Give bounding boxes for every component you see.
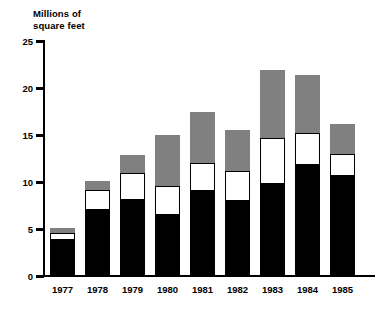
x-axis-label: 1985	[320, 284, 366, 295]
y-axis-tick-label: 0	[5, 271, 33, 282]
y-axis-tick-label: 20	[5, 83, 33, 94]
bar-group	[50, 0, 75, 322]
y-axis-tick	[36, 134, 44, 137]
y-axis-tick-label: 15	[5, 130, 33, 141]
bar-segment-bottom	[225, 201, 250, 276]
y-axis-line	[43, 40, 45, 277]
y-axis-tick	[36, 275, 44, 278]
y-axis-tick	[36, 40, 44, 43]
bar-segment-top	[155, 135, 180, 186]
bar-group	[225, 0, 250, 322]
bar-group	[190, 0, 215, 322]
bar-group	[85, 0, 110, 322]
bar-segment-bottom	[155, 215, 180, 276]
y-axis-tick	[36, 87, 44, 90]
bar-segment-middle	[120, 173, 145, 200]
bar-segment-middle	[225, 171, 250, 201]
bar-group	[330, 0, 355, 322]
bar-group	[155, 0, 180, 322]
bar-segment-middle	[50, 233, 75, 241]
bar-segment-bottom	[120, 200, 145, 276]
bar-segment-top	[295, 75, 320, 133]
bar-segment-middle	[260, 138, 285, 184]
bar-segment-top	[225, 130, 250, 170]
y-axis-tick	[36, 228, 44, 231]
bar-segment-top	[190, 112, 215, 164]
bar-segment-top	[85, 181, 110, 190]
bar-segment-bottom	[50, 240, 75, 276]
bar-group	[120, 0, 145, 322]
bar-segment-top	[330, 124, 355, 154]
y-axis-tick	[36, 181, 44, 184]
y-axis-tick-label: 5	[5, 224, 33, 235]
bar-segment-bottom	[190, 191, 215, 276]
bar-segment-middle	[190, 163, 215, 191]
bar-segment-top	[260, 70, 285, 138]
bar-segment-middle	[155, 186, 180, 215]
bar-group	[295, 0, 320, 322]
bar-segment-bottom	[260, 184, 285, 276]
bar-segment-top	[120, 155, 145, 173]
bar-segment-middle	[330, 154, 355, 177]
bar-segment-middle	[85, 190, 110, 210]
bar-segment-bottom	[85, 210, 110, 276]
y-axis-tick-label: 10	[5, 177, 33, 188]
bar-segment-bottom	[330, 176, 355, 276]
bar-group	[260, 0, 285, 322]
bar-segment-middle	[295, 133, 320, 165]
bar-segment-bottom	[295, 165, 320, 276]
chart-container: Millions of square feet 0510152025 19771…	[0, 0, 391, 322]
y-axis-tick-label: 25	[5, 36, 33, 47]
